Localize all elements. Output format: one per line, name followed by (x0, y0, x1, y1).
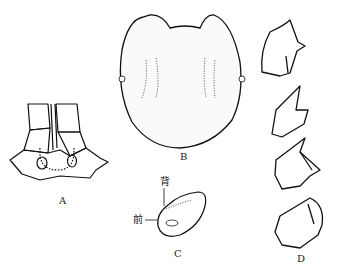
figure-canvas (0, 0, 346, 269)
panel-b-label: B (180, 152, 187, 162)
dorsal-annotation: 背 (160, 177, 170, 187)
panel-c-label: C (174, 249, 182, 259)
panel-d-label: D (297, 254, 305, 264)
panel-d-drawing (262, 20, 323, 248)
panel-c-drawing (145, 188, 206, 236)
panel-a-drawing (10, 104, 108, 180)
anterior-annotation: 前 (133, 215, 143, 225)
panel-b-drawing (119, 15, 245, 148)
panel-a-label: A (59, 196, 66, 206)
